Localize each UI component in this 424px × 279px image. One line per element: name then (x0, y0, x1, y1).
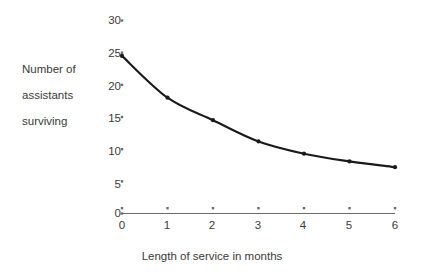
data-series-line (122, 56, 395, 167)
plot-area (0, 0, 424, 279)
chart-container: Number of assistants surviving 30 25 20 … (0, 0, 424, 279)
data-point-markers (120, 54, 397, 169)
y-axis-tick-marks (121, 19, 123, 214)
x-axis-tick-marks (121, 207, 396, 209)
x-axis-title: Length of service in months (0, 250, 424, 262)
